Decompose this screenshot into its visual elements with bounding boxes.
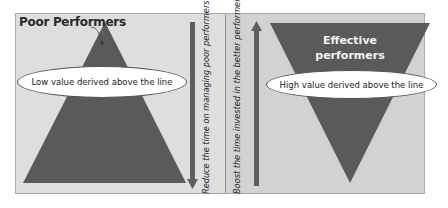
diagram-shapes	[0, 0, 448, 208]
poor-performers-title: Poor Performers	[19, 15, 126, 29]
poor-performers-triangle	[23, 22, 186, 183]
connector-dot	[101, 42, 104, 45]
effective-performers-title: Effective performers	[300, 33, 400, 63]
boost-time-label: Boost the time invested in the better pe…	[232, 4, 242, 194]
up-arrow-shaft	[254, 30, 259, 186]
high-value-label: High value derived above the line	[280, 80, 424, 90]
low-value-ellipse: Low value derived above the line	[17, 66, 187, 98]
low-value-label: Low value derived above the line	[32, 77, 173, 87]
down-arrow-icon	[187, 179, 198, 189]
effective-title-line2: performers	[300, 48, 400, 63]
reduce-time-label: Reduce the time on managing poor perform…	[201, 4, 211, 194]
high-value-ellipse: High value derived above the line	[266, 70, 437, 99]
effective-title-line1: Effective	[300, 33, 400, 48]
up-arrow-icon	[251, 21, 262, 31]
down-arrow-shaft	[190, 22, 195, 180]
